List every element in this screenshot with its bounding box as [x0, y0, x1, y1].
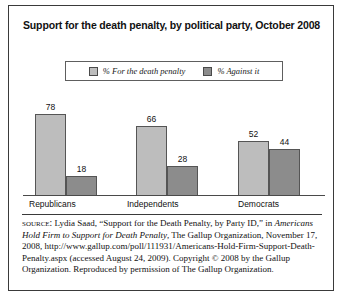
legend-item-for: % For the death penalty: [89, 66, 186, 76]
source-label: SOURCE:: [22, 218, 52, 228]
x-axis-line: [23, 195, 325, 196]
legend-swatch-for-icon: [89, 67, 98, 76]
bar-value-democrats-for: 52: [249, 129, 258, 139]
bar-wrap-republicans-against: 18: [66, 91, 97, 195]
x-axis-label-democrats: Democrats: [238, 199, 279, 209]
x-axis-label-republicans: Republicans: [29, 199, 76, 209]
legend-label-for: % For the death penalty: [103, 66, 186, 76]
bar-group-republicans: 78 18: [35, 91, 97, 195]
bar-wrap-democrats-for: 52: [238, 91, 269, 195]
x-axis-labels: Republicans Independents Democrats: [23, 199, 325, 213]
x-axis-label-independents: Independents: [127, 199, 179, 209]
bar-republicans-against: [66, 176, 97, 195]
chart-legend: % For the death penalty % Against it: [65, 61, 283, 81]
figure-container: Support for the death penalty, by politi…: [8, 5, 334, 291]
bar-wrap-independents-for: 66: [136, 91, 167, 195]
bar-group-independents: 66 28: [136, 91, 198, 195]
legend-item-against: % Against it: [203, 66, 259, 76]
source-divider: [22, 214, 322, 215]
bar-group-democrats: 52 44: [238, 91, 300, 195]
bar-wrap-democrats-against: 44: [269, 91, 300, 195]
bar-independents-for: [136, 126, 167, 195]
bar-value-independents-against: 28: [178, 154, 187, 164]
source-text-before: Lydia Saad, “Support for the Death Penal…: [52, 218, 274, 228]
chart-title: Support for the death penalty, by politi…: [23, 19, 323, 31]
source-note: SOURCE: Lydia Saad, “Support for the Dea…: [22, 218, 324, 276]
bar-independents-against: [167, 166, 198, 195]
bar-democrats-for: [238, 141, 269, 195]
chart-area: % For the death penalty % Against it 78 …: [9, 39, 333, 214]
bar-republicans-for: [35, 114, 66, 195]
legend-swatch-against-icon: [203, 67, 212, 76]
plot-bars: 78 18 66 28 52: [23, 91, 323, 195]
bar-wrap-independents-against: 28: [167, 91, 198, 195]
legend-label-against: % Against it: [217, 66, 259, 76]
bar-value-republicans-against: 18: [77, 164, 86, 174]
bar-value-republicans-for: 78: [46, 102, 55, 112]
bar-value-democrats-against: 44: [280, 137, 289, 147]
bar-value-independents-for: 66: [147, 114, 156, 124]
bar-democrats-against: [269, 149, 300, 195]
bar-wrap-republicans-for: 78: [35, 91, 66, 195]
